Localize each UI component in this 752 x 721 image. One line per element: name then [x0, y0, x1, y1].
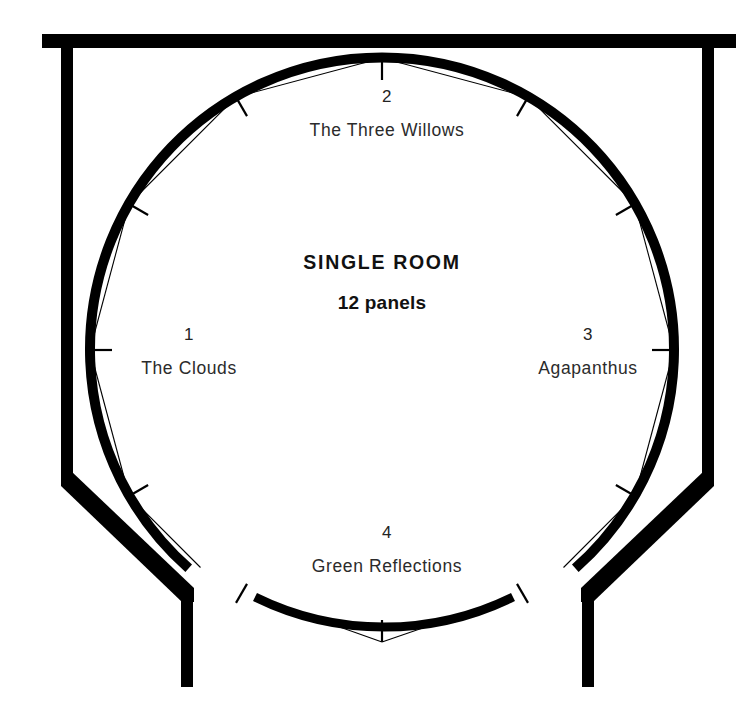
joint-tick-60: [616, 204, 635, 215]
wall-left-lower-vertical: [181, 590, 193, 687]
panel-label-group-4[interactable]: 4 Green Reflections: [272, 524, 502, 576]
panel-title-1: The Clouds: [104, 358, 274, 378]
panel-number-3: 3: [498, 326, 678, 345]
joint-tick-330: [236, 97, 247, 116]
chord-11-to-10: [129, 97, 236, 204]
panel-number-4: 4: [272, 524, 502, 543]
room-panel-count: 12 panels: [182, 293, 582, 314]
panel-number-1: 1: [104, 326, 274, 345]
partition-bottom-arc: [255, 597, 513, 627]
room-title: SINGLE ROOM: [182, 252, 582, 273]
panel-label-group-3[interactable]: 3 Agapanthus: [498, 326, 678, 378]
panel-title-2: The Three Willows: [297, 120, 477, 140]
joint-tick-30: [517, 97, 528, 116]
joint-tick-210: [236, 584, 247, 603]
joint-tick-150: [517, 584, 528, 603]
room-caption: SINGLE ROOM 12 panels: [182, 252, 582, 314]
panel-title-4: Green Reflections: [272, 556, 502, 576]
chord-bottom-right: [382, 598, 510, 642]
floor-plan-diagram: 1 The Clouds 2 The Three Willows 3 Agapa…: [0, 0, 752, 721]
panel-label-group-1[interactable]: 1 The Clouds: [104, 326, 274, 378]
panel-label-group-2[interactable]: 2 The Three Willows: [297, 88, 477, 140]
panel-number-2: 2: [297, 88, 477, 107]
wall-top-bar: [42, 34, 736, 48]
chord-1-to-2: [528, 97, 635, 204]
chord-bottom-left: [258, 598, 382, 642]
wall-left-vertical: [61, 46, 73, 480]
wall-right-lower-vertical: [582, 590, 594, 687]
panel-title-3: Agapanthus: [498, 358, 678, 378]
panel4-partition: [255, 597, 513, 627]
joint-tick-300: [129, 204, 148, 215]
wall-right-vertical: [702, 46, 714, 480]
